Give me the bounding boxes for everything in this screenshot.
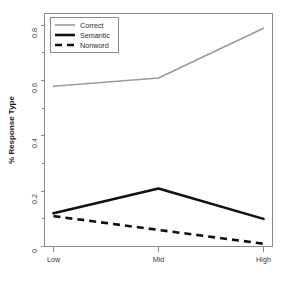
y-tick-label-0.2: 0.2 xyxy=(30,194,39,204)
y-axis-title-group: % Response Type xyxy=(7,96,16,164)
y-axis-ticks xyxy=(41,26,45,247)
series-line-nonword xyxy=(54,216,264,244)
x-axis-ticks xyxy=(54,247,264,252)
series-line-semantic xyxy=(54,188,264,218)
chart-canvas: 0.8 0.6 0.4 0.2 0 % Response Type Low Mi… xyxy=(0,0,282,281)
data-series-group xyxy=(54,28,264,243)
x-tick-label-low: Low xyxy=(47,255,61,264)
y-tick-label-0: 0 xyxy=(30,249,39,253)
legend-label-correct: Correct xyxy=(80,21,104,30)
y-tick-label-0.8: 0.8 xyxy=(30,28,39,38)
x-tick-label-mid: Mid xyxy=(153,255,165,264)
y-tick-label-0.6: 0.6 xyxy=(30,83,39,93)
x-axis-labels: Low Mid High xyxy=(47,255,271,264)
legend-label-nonword: Nonword xyxy=(80,41,109,50)
legend-label-semantic: Semantic xyxy=(80,31,110,40)
y-axis-title: % Response Type xyxy=(7,96,16,164)
legend: Correct Semantic Nonword xyxy=(51,18,119,53)
line-chart: 0.8 0.6 0.4 0.2 0 % Response Type Low Mi… xyxy=(0,0,282,281)
x-tick-label-high: High xyxy=(256,255,271,264)
y-tick-label-0.4: 0.4 xyxy=(30,138,39,148)
y-axis-labels: 0.8 0.6 0.4 0.2 0 xyxy=(30,28,39,253)
